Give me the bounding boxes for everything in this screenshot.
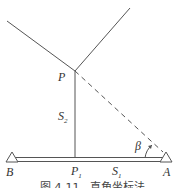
label-s1: S1 <box>112 164 122 180</box>
dashed-line-p-to-a <box>75 71 163 152</box>
building-edge-left <box>7 21 75 71</box>
rectangular-coordinate-diagram: P S2 β B P1 S1 A 图 4-11 直角坐标法 <box>0 0 176 188</box>
building-edge-right <box>75 8 130 71</box>
label-a: A <box>162 165 171 179</box>
label-p1: P1 <box>70 164 82 180</box>
label-s2: S2 <box>58 109 68 125</box>
figure-caption: 图 4-11 直角坐标法 <box>40 180 145 188</box>
label-p: P <box>57 70 66 84</box>
label-beta: β <box>134 139 141 153</box>
label-b: B <box>6 165 14 179</box>
